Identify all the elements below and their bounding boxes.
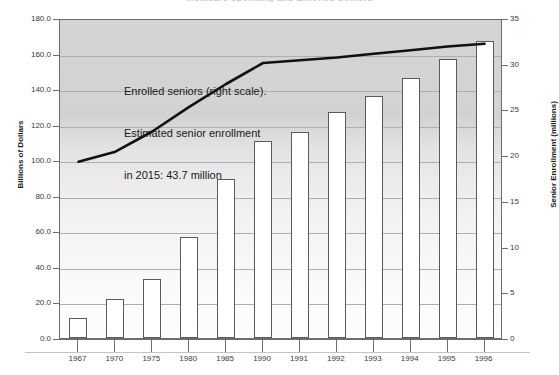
x-axis-tick-label: 1990 <box>242 354 282 363</box>
x-axis-tick-mark <box>336 339 337 352</box>
y-axis-right-tick-mark <box>502 339 508 340</box>
x-axis-tick-label: 1994 <box>390 354 430 363</box>
x-axis-tick-mark <box>77 339 78 352</box>
x-axis-tick-mark <box>299 339 300 352</box>
x-axis-tick-label: 1980 <box>168 354 208 363</box>
x-axis-tick-mark <box>410 339 411 352</box>
x-axis-tick-mark <box>114 339 115 352</box>
chart-container: Medicare Spending and Enrolled Seniors 0… <box>0 0 559 375</box>
x-axis-tick-mark <box>484 339 485 352</box>
y-axis-left-tick-label: 80.0 <box>0 192 51 201</box>
y-axis-right-tick-label: 10 <box>510 243 540 252</box>
y-axis-left-tick-label: 120.0 <box>0 121 51 130</box>
x-axis-tick-mark <box>373 339 374 352</box>
x-axis-tick-label: 1970 <box>94 354 134 363</box>
x-axis-tick-label: 1991 <box>279 354 319 363</box>
y-axis-right-title: Senior Enrollment (millions) <box>549 75 558 235</box>
plot-area: Enrolled seniors (right scale). Estimate… <box>59 19 502 339</box>
y-axis-left-tick-label: 40.0 <box>0 263 51 272</box>
y-axis-right-tick-mark <box>502 110 508 111</box>
y-axis-left-tick-label: 100.0 <box>0 156 51 165</box>
y-axis-left-title: Billions of Dollars <box>16 85 25 225</box>
y-axis-right-tick-label: 20 <box>510 151 540 160</box>
y-axis-right-tick-label: 35 <box>510 14 540 23</box>
x-axis-tick-label: 1995 <box>427 354 467 363</box>
x-axis-underline <box>25 352 530 353</box>
y-axis-right-tick-label: 25 <box>510 105 540 114</box>
x-axis-tick-mark <box>151 339 152 352</box>
y-axis-left-tick-label: 140.0 <box>0 85 51 94</box>
x-axis-tick-label: 1993 <box>353 354 393 363</box>
x-axis-tick-label: 1996 <box>464 354 504 363</box>
y-axis-right-tick-mark <box>502 293 508 294</box>
y-axis-right-tick-mark <box>502 19 508 20</box>
y-axis-right-tick-mark <box>502 156 508 157</box>
y-axis-right-tick-label: 5 <box>510 288 540 297</box>
x-axis-tick-mark <box>262 339 263 352</box>
y-axis-left-tick-label: 160.0 <box>0 50 51 59</box>
y-axis-left-tick-label: 0.0 <box>0 334 51 343</box>
x-axis-tick-mark <box>447 339 448 352</box>
y-axis-right-tick-label: 15 <box>510 197 540 206</box>
y-axis-right-tick-mark <box>502 202 508 203</box>
x-axis-tick-label: 1967 <box>57 354 97 363</box>
x-axis-tick-label: 1975 <box>131 354 171 363</box>
y-axis-left-tick-label: 180.0 <box>0 14 51 23</box>
y-axis-right-tick-label: 30 <box>510 60 540 69</box>
x-axis-tick-mark <box>188 339 189 352</box>
y-axis-right-tick-mark <box>502 248 508 249</box>
line-series <box>60 20 502 339</box>
x-axis-line <box>59 339 502 340</box>
y-axis-right-tick-mark <box>502 65 508 66</box>
chart-title: Medicare Spending and Enrolled Seniors <box>0 0 559 2</box>
y-axis-right-tick-label: 0 <box>510 334 540 343</box>
y-axis-left-tick-label: 60.0 <box>0 227 51 236</box>
x-axis-tick-label: 1985 <box>205 354 245 363</box>
x-axis-tick-mark <box>225 339 226 352</box>
senior-enrollment-line <box>79 44 485 162</box>
y-axis-left-tick-label: 20.0 <box>0 298 51 307</box>
x-axis-tick-label: 1992 <box>316 354 356 363</box>
